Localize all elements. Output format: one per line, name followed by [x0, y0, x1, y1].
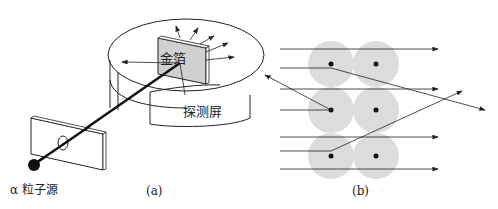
- gold-foil-label: 金箔: [160, 48, 186, 67]
- collimator-plate: [31, 116, 106, 170]
- alpha-source-icon: [28, 159, 40, 171]
- diagram-canvas: [0, 0, 498, 209]
- caption-a: (a): [146, 184, 163, 198]
- detector-screen-label: 探测屏: [183, 101, 222, 120]
- caption-b: (b): [352, 184, 369, 198]
- alpha-source-label: α 粒子源: [10, 180, 58, 197]
